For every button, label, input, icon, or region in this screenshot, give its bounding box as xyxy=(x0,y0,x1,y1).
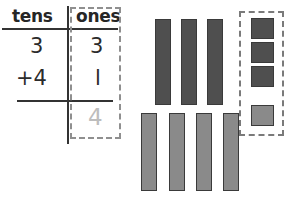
ten-rod-light xyxy=(141,113,157,191)
base-ten-blocks xyxy=(0,0,293,204)
unit-cube-light xyxy=(251,105,274,126)
unit-cube-dark xyxy=(251,18,274,39)
worksheet-canvas: tens ones 3 3 +4 l 4 xyxy=(0,0,293,204)
unit-cube-dark xyxy=(251,66,274,87)
unit-cube-dark xyxy=(251,42,274,63)
ten-rod-light xyxy=(169,113,185,191)
ten-rod-dark xyxy=(207,19,223,105)
ten-rod-dark xyxy=(181,19,197,105)
ten-rod-light xyxy=(196,113,212,191)
ten-rod-light xyxy=(223,113,239,191)
ten-rod-dark xyxy=(155,19,171,105)
